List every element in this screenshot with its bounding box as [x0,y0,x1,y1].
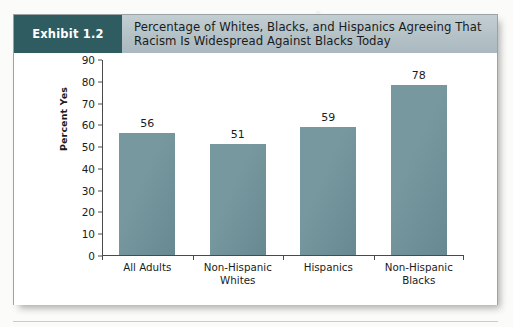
bar-value-label: 78 [412,69,426,82]
bar-value-label: 51 [231,128,245,141]
exhibit-badge: Exhibit 1.2 [14,15,122,53]
bar [391,85,447,255]
page-rule [13,321,498,322]
x-tick-mark [193,256,194,260]
bar [210,144,266,255]
y-tick-mark [98,234,102,235]
y-tick-mark [98,190,102,191]
y-tick-mark [98,168,102,169]
y-axis-line [102,60,103,256]
x-tick-label: Non-Hispanic Blacks [385,261,453,286]
y-tick-mark [98,60,102,61]
x-tick-mark [374,256,375,260]
chart-plot-body: Percent Yes 0102030405060708090 56515978… [14,53,497,305]
y-axis-title: Percent Yes [58,87,69,151]
exhibit-card: Exhibit 1.2 Percentage of Whites, Blacks… [13,14,498,305]
bar-value-label: 56 [140,117,154,130]
x-tick-label: Non-Hispanic Whites [204,261,272,286]
x-tick-mark [463,256,464,260]
bar [300,127,356,255]
y-tick-mark [98,125,102,126]
exhibit-title: Percentage of Whites, Blacks, and Hispan… [122,15,497,53]
x-tick-label: Hispanics [304,261,353,274]
x-tick-mark [102,256,103,260]
y-tick-mark [98,81,102,82]
x-tick-mark [283,256,284,260]
y-tick-mark [98,147,102,148]
y-tick-mark [98,103,102,104]
x-tick-label: All Adults [123,261,171,274]
plot-area: 0102030405060708090 56515978 [102,60,464,256]
bar-value-label: 59 [321,111,335,124]
bar [119,133,175,255]
exhibit-header: Exhibit 1.2 Percentage of Whites, Blacks… [14,15,497,53]
y-tick-mark [98,212,102,213]
